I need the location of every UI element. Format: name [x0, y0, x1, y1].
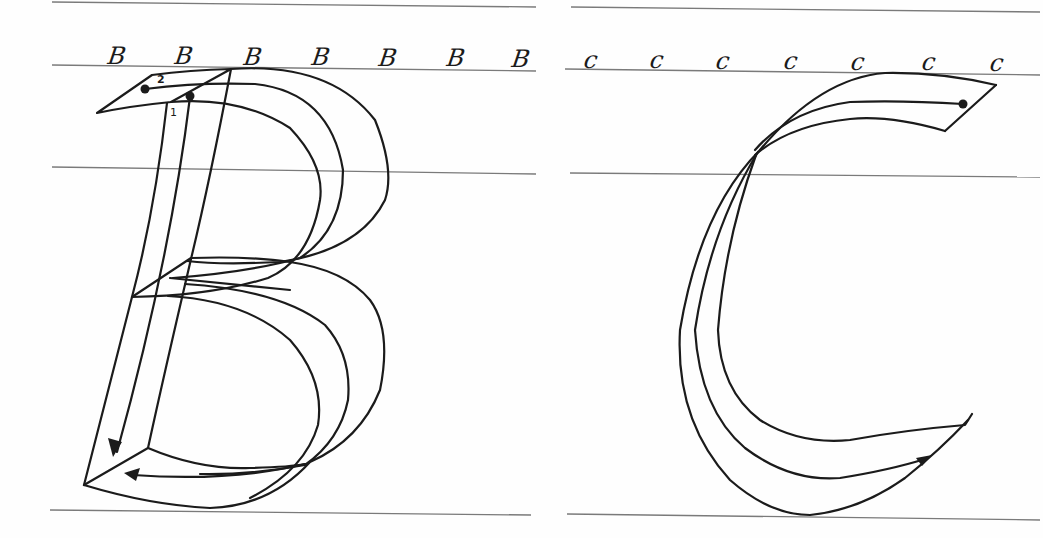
c-top-wedge-edge — [945, 85, 996, 131]
c-stroke-arrowhead — [916, 455, 932, 466]
c-top-wedge-outer — [760, 73, 996, 150]
c-stroke-upper-path — [755, 101, 963, 150]
c-stroke-middle-path — [695, 152, 925, 478]
c-body-inner — [718, 155, 972, 441]
calligraphy-worksheet: B B B B B B B 2 1 — [0, 0, 1043, 538]
letter-c-diagram — [0, 0, 1043, 538]
